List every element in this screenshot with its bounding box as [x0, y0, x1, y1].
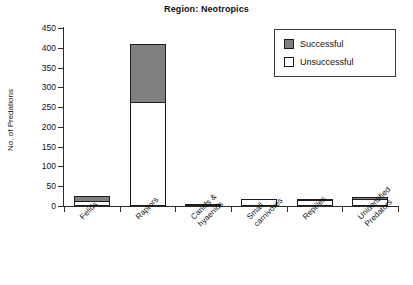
legend-label-successful: Successful: [300, 38, 344, 50]
y-axis-tick: [58, 87, 63, 88]
y-axis-tick-label-text: 350: [18, 64, 56, 72]
y-axis-tick: [58, 68, 63, 69]
x-axis-tick: [120, 207, 121, 212]
legend-swatch-unsuccessful: [284, 57, 294, 67]
y-axis-tick-label: 100: [14, 162, 56, 170]
y-axis-tick-label: 200: [14, 123, 56, 131]
x-axis-tick: [175, 207, 176, 212]
y-axis-tick-label: 350: [14, 64, 56, 72]
x-axis-tick: [64, 207, 65, 212]
y-axis-tick-label-text: 200: [18, 123, 56, 131]
y-axis-tick: [58, 147, 63, 148]
bar-group[interactable]: [130, 28, 166, 206]
y-axis-tick-label-text: 250: [18, 103, 56, 111]
y-axis-tick: [58, 186, 63, 187]
bar-group[interactable]: [185, 28, 221, 206]
y-axis-label-text: No. of Predations: [6, 89, 15, 151]
bar-segment-successful: [130, 44, 166, 103]
chart-title: Region: Neotropics: [0, 4, 413, 14]
chart-legend: Successful Unsuccessful: [274, 29, 396, 77]
y-axis-tick-label: 0: [14, 202, 56, 210]
x-axis-tick: [398, 207, 399, 212]
legend-swatch-successful: [284, 39, 294, 49]
y-axis-tick: [58, 28, 63, 29]
bar-group[interactable]: [74, 28, 110, 206]
x-axis-tick: [287, 207, 288, 212]
y-axis-tick: [58, 166, 63, 167]
y-axis-tick-label: 150: [14, 143, 56, 151]
y-axis-tick: [58, 127, 63, 128]
y-axis-tick-label: 50: [14, 182, 56, 190]
y-axis-tick-label-text: 300: [18, 83, 56, 91]
y-axis-tick-label-text: 0: [18, 202, 56, 210]
y-axis-tick: [58, 107, 63, 108]
y-axis-tick-label-text: 400: [18, 44, 56, 52]
legend-label-unsuccessful: Unsuccessful: [300, 56, 354, 68]
y-axis-tick: [58, 48, 63, 49]
y-axis-tick-label-text: 50: [18, 182, 56, 190]
y-axis-tick-label-text: 450: [18, 24, 56, 32]
y-axis-tick: [58, 206, 63, 207]
y-axis-tick-label-text: 150: [18, 143, 56, 151]
x-axis-tick: [342, 207, 343, 212]
y-axis-tick-label-text: 100: [18, 162, 56, 170]
bar-segment-unsuccessful: [130, 102, 166, 206]
y-axis-tick-label: 400: [14, 44, 56, 52]
y-axis-tick-label: 300: [14, 83, 56, 91]
bar-group[interactable]: [241, 28, 277, 206]
y-axis-tick-label: 450: [14, 24, 56, 32]
chart-figure: Region: Neotropics No. of Predations 050…: [0, 0, 413, 285]
y-axis-tick-label: 250: [14, 103, 56, 111]
x-axis-tick: [231, 207, 232, 212]
